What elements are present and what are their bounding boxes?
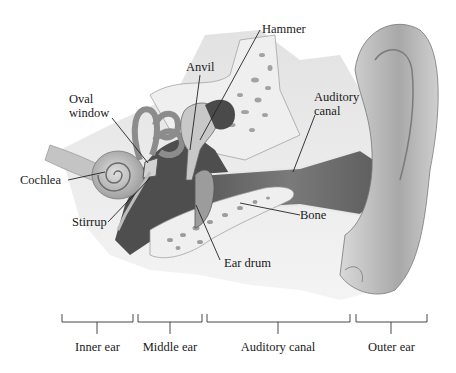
label-bone: Bone xyxy=(300,208,326,222)
label-stirrup: Stirrup xyxy=(72,215,107,229)
label-hammer: Hammer xyxy=(262,22,306,36)
ear-anatomy-diagram: Hammer Anvil Oval window Auditory canal … xyxy=(0,0,456,373)
label-oval-window-line2: window xyxy=(69,106,109,120)
ear-illustration xyxy=(0,0,456,373)
label-anvil: Anvil xyxy=(186,60,214,74)
section-inner-ear: Inner ear xyxy=(62,340,133,355)
label-oval-window-line1: Oval xyxy=(69,92,93,106)
section-outer-ear: Outer ear xyxy=(356,340,427,355)
label-auditory-canal-line2: canal xyxy=(314,104,340,118)
section-auditory-canal: Auditory canal xyxy=(228,340,328,355)
label-auditory-canal-line1: Auditory xyxy=(314,90,359,104)
cochlea-shape xyxy=(92,151,144,199)
label-cochlea: Cochlea xyxy=(20,173,61,187)
section-brackets xyxy=(62,314,427,334)
label-ear-drum: Ear drum xyxy=(224,256,271,270)
section-middle-ear: Middle ear xyxy=(133,340,207,355)
